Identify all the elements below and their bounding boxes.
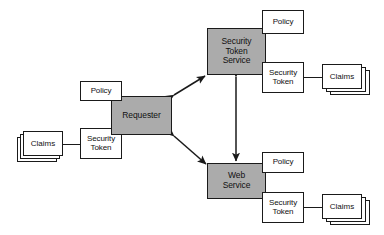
ws-policy-label: Policy [273, 158, 294, 167]
requester-claims-label: Claims [31, 139, 55, 148]
requester-policy-label: Policy [91, 87, 112, 96]
security-token-service-box[interactable]: Security Token Service [207, 28, 266, 75]
web-service-label: Web Service [223, 171, 251, 190]
security-token-service-label: Security Token Service [222, 37, 252, 66]
requester-security-token-label: Security Token [87, 135, 115, 153]
sts-security-token-label: Security Token [269, 69, 297, 87]
ws-claims-label: Claims [330, 202, 354, 211]
sts-policy-box[interactable]: Policy [262, 10, 304, 34]
connector-ws-claims [303, 207, 323, 208]
requester-claims-box[interactable]: Claims [23, 131, 63, 156]
requester-claims-stack: Claims [17, 131, 65, 163]
requester-policy-box[interactable]: Policy [80, 81, 122, 101]
sts-claims-label: Claims [330, 72, 354, 81]
ws-security-token-label: Security Token [269, 199, 297, 217]
ws-policy-box[interactable]: Policy [262, 152, 304, 173]
sts-security-token-box[interactable]: Security Token [262, 62, 304, 93]
ws-claims-stack: Claims [322, 194, 370, 226]
sts-claims-stack: Claims [322, 64, 370, 96]
ws-security-token-box[interactable]: Security Token [262, 192, 304, 223]
arrow-requester-sts [174, 76, 205, 95]
requester-box[interactable]: Requester [111, 96, 172, 135]
diagram-canvas: Claims Security Token Requester Policy S… [0, 0, 384, 235]
sts-policy-label: Policy [273, 18, 294, 27]
web-service-box[interactable]: Web Service [207, 163, 266, 199]
requester-label: Requester [122, 111, 160, 121]
ws-claims-box[interactable]: Claims [322, 194, 362, 219]
sts-claims-box[interactable]: Claims [322, 64, 362, 89]
arrow-requester-web-service [174, 136, 206, 164]
connector-sts-claims [303, 77, 323, 78]
